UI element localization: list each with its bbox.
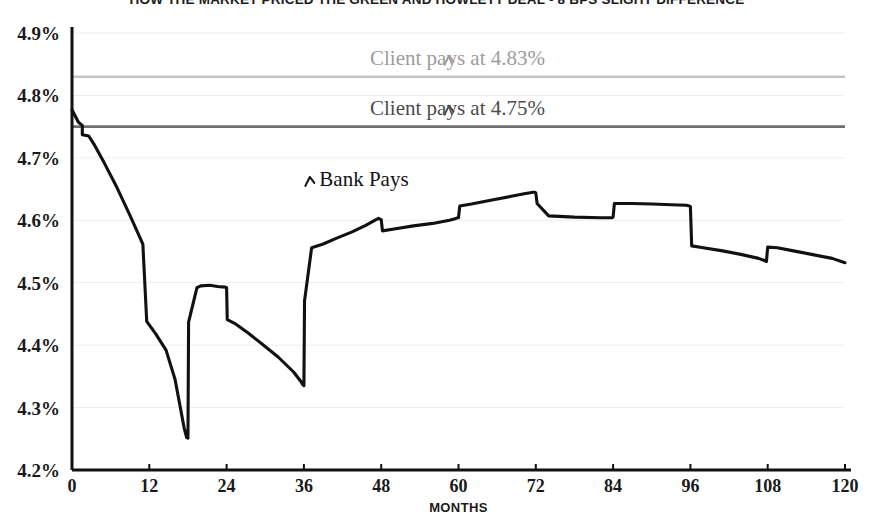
x-tick-label: 84: [604, 476, 622, 496]
chart-container: HOW THE MARKET PRICED THE GREEN AND HOWL…: [0, 0, 874, 517]
y-tick-label: 4.8%: [17, 85, 60, 106]
y-tick-label: 4.7%: [17, 148, 60, 169]
x-tick-label: 96: [681, 476, 699, 496]
chart-plot-area: 4.2%4.3%4.4%4.5%4.6%4.7%4.8%4.9% 0122436…: [0, 0, 874, 517]
x-axis-title: MONTHS: [429, 500, 488, 515]
annotations-group: Client pays at 4.83%Client pays at 4.75%…: [305, 46, 545, 191]
reference-line-label-1: Client pays at 4.75%: [370, 96, 545, 120]
caret-up-left-icon: [305, 177, 314, 186]
y-tick-labels-group: 4.2%4.3%4.4%4.5%4.6%4.7%4.8%4.9%: [17, 23, 60, 481]
series-label-bank-pays: Bank Pays: [319, 167, 408, 191]
y-tick-label: 4.2%: [17, 460, 60, 481]
reference-line-label-0: Client pays at 4.83%: [370, 46, 545, 70]
x-tick-label: 12: [140, 476, 158, 496]
data-series-group: [72, 110, 845, 438]
y-tick-label: 4.9%: [17, 23, 60, 44]
y-tick-label: 4.4%: [17, 335, 60, 356]
x-tick-label: 0: [68, 476, 77, 496]
x-tick-label: 120: [832, 476, 859, 496]
x-tick-label: 72: [527, 476, 545, 496]
y-tick-label: 4.5%: [17, 273, 60, 294]
x-tick-label: 48: [372, 476, 390, 496]
x-tick-labels-group: 01224364860728496108120: [68, 476, 859, 496]
y-tick-label: 4.3%: [17, 398, 60, 419]
series-line-bank-pays: [72, 110, 845, 438]
y-tick-label: 4.6%: [17, 210, 60, 231]
x-tick-label: 108: [754, 476, 781, 496]
x-tick-label: 60: [450, 476, 468, 496]
x-tick-label: 24: [218, 476, 236, 496]
x-tick-label: 36: [295, 476, 313, 496]
